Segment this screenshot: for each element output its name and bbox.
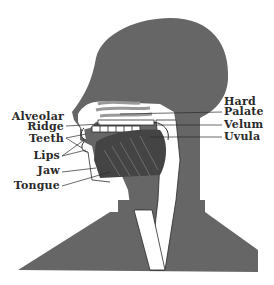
- hard-palate: [98, 120, 154, 125]
- label-teeth: Teeth: [0, 133, 64, 145]
- label-palate: Palate: [224, 106, 264, 118]
- label-uvula: Uvula: [224, 131, 260, 143]
- label-tongue: Tongue: [0, 180, 60, 192]
- label-jaw: Jaw: [0, 165, 60, 177]
- label-lips: Lips: [0, 150, 60, 162]
